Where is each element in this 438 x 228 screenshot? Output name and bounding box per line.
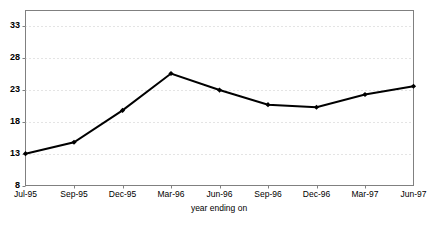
y-tick-label: 18: [2, 117, 20, 126]
y-tick-label: 33: [2, 21, 20, 30]
y-tick-label: 28: [2, 53, 20, 62]
y-tick-label: 13: [2, 149, 20, 158]
line-chart: 81318232833 Jul-95Sep-95Dec-95Mar-96Jun-…: [0, 0, 438, 228]
y-tick-label: 23: [2, 85, 20, 94]
x-axis-title: year ending on: [0, 203, 438, 213]
x-tick-label: Jun-97: [384, 190, 438, 199]
